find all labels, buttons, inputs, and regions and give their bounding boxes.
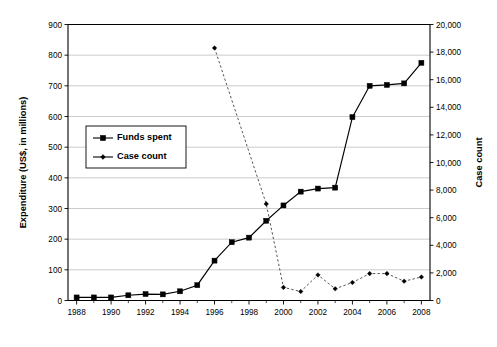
left-tick-label: 800 [48,51,62,60]
marker-funds-spent [229,240,234,245]
right-tick-label: 14,000 [436,103,461,112]
x-tick-label: 1996 [205,308,224,317]
marker-funds-spent [100,135,105,140]
marker-funds-spent [384,82,389,87]
right-tick-label: 0 [436,297,441,306]
marker-funds-spent [350,115,355,120]
marker-funds-spent [91,295,96,300]
marker-funds-spent [315,186,320,191]
marker-funds-spent [178,289,183,294]
right-tick-label: 12,000 [436,131,461,140]
x-tick-label: 2000 [274,308,293,317]
right-tick-label: 10,000 [436,159,461,168]
x-tick-label: 2008 [412,308,431,317]
marker-funds-spent [298,189,303,194]
marker-funds-spent [333,185,338,190]
right-tick-label: 16,000 [436,76,461,85]
x-tick-label: 2004 [343,308,362,317]
marker-funds-spent [419,60,424,65]
chart-container: 010020030040050060070080090002,0004,0006… [0,0,497,347]
x-tick-label: 1988 [68,308,87,317]
marker-funds-spent [247,235,252,240]
right-tick-label: 2,000 [436,269,457,278]
right-tick-label: 6,000 [436,214,457,223]
marker-funds-spent [160,292,165,297]
left-tick-label: 300 [48,205,62,214]
marker-funds-spent [195,283,200,288]
left-axis-title: Expenditure (US$, in millions) [18,97,28,229]
left-tick-label: 0 [57,297,62,306]
right-tick-label: 20,000 [436,21,461,30]
left-tick-label: 600 [48,113,62,122]
left-tick-label: 900 [48,21,62,30]
legend-entry-label: Funds spent [117,132,172,142]
marker-funds-spent [402,81,407,86]
left-tick-label: 700 [48,82,62,91]
marker-funds-spent [74,295,79,300]
marker-funds-spent [281,203,286,208]
right-tick-label: 8,000 [436,186,457,195]
right-tick-label: 18,000 [436,48,461,57]
marker-funds-spent [126,293,131,298]
right-tick-label: 4,000 [436,241,457,250]
x-tick-label: 2006 [378,308,397,317]
marker-funds-spent [212,258,217,263]
x-tick-label: 1994 [171,308,190,317]
left-tick-label: 100 [48,266,62,275]
left-tick-label: 200 [48,235,62,244]
right-axis-title: Case count [474,137,484,187]
x-tick-label: 1998 [240,308,259,317]
dual-axis-line-chart: 010020030040050060070080090002,0004,0006… [0,0,497,347]
marker-funds-spent [367,83,372,88]
marker-funds-spent [109,295,114,300]
x-tick-label: 1990 [102,308,121,317]
marker-funds-spent [264,218,269,223]
legend-entry-label: Case count [117,151,167,161]
left-tick-label: 400 [48,174,62,183]
marker-funds-spent [143,292,148,297]
x-tick-label: 2002 [309,308,328,317]
chart-legend[interactable]: Funds spentCase count [86,126,186,168]
x-tick-label: 1992 [136,308,155,317]
left-tick-label: 500 [48,143,62,152]
